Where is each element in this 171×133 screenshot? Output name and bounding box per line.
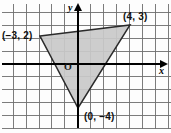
coordinate-plane-figure: (−3, 2) (4, 3) (0, −4) y x O [0,0,171,133]
origin-label: O [64,62,72,72]
x-axis-label: x [159,66,164,76]
vertex-label-top-right: (4, 3) [123,12,148,22]
y-axis-arrowhead [74,3,82,11]
vertex-label-bottom: (0, −4) [84,112,115,122]
vertex-label-top-left: (−3, 2) [2,31,33,41]
y-axis-label: y [68,3,72,13]
